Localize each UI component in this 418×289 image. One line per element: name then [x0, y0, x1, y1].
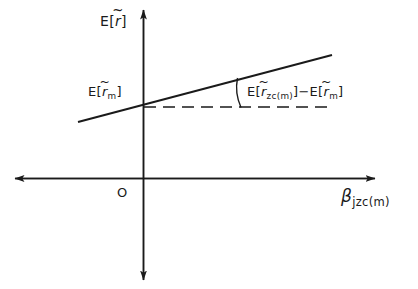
slope-part2-subscript: m [329, 91, 338, 101]
intercept-label: E[~rm] [88, 85, 122, 98]
figure-canvas: E[~r] βjzc(m) E[~rm] E[~rzc(m)]−E[~rm] O [0, 0, 418, 289]
slope-part1-subscript: zc(m) [267, 91, 293, 101]
slope-label: E[~rzc(m)]−E[~rm] [247, 85, 343, 98]
y-axis-label: E[~r] [100, 14, 127, 28]
intercept-suffix: ] [116, 84, 121, 99]
x-axis-label-var: β [341, 186, 352, 206]
slope-arc-marker [237, 78, 241, 108]
intercept-tilde: ~ [99, 76, 110, 88]
x-axis-label: βjzc(m) [341, 188, 390, 205]
diagram-svg [0, 0, 418, 289]
x-axis-label-subscript: jzc(m) [352, 195, 390, 209]
origin-label: O [117, 186, 128, 199]
slope-part2-suffix: ] [338, 84, 343, 99]
slope-part2-tilde: ~ [321, 76, 332, 88]
slope-operator: − [298, 84, 309, 99]
intercept-subscript: m [108, 91, 117, 101]
slope-part1-tilde: ~ [258, 76, 269, 88]
y-axis-label-tilde: ~ [112, 4, 123, 17]
